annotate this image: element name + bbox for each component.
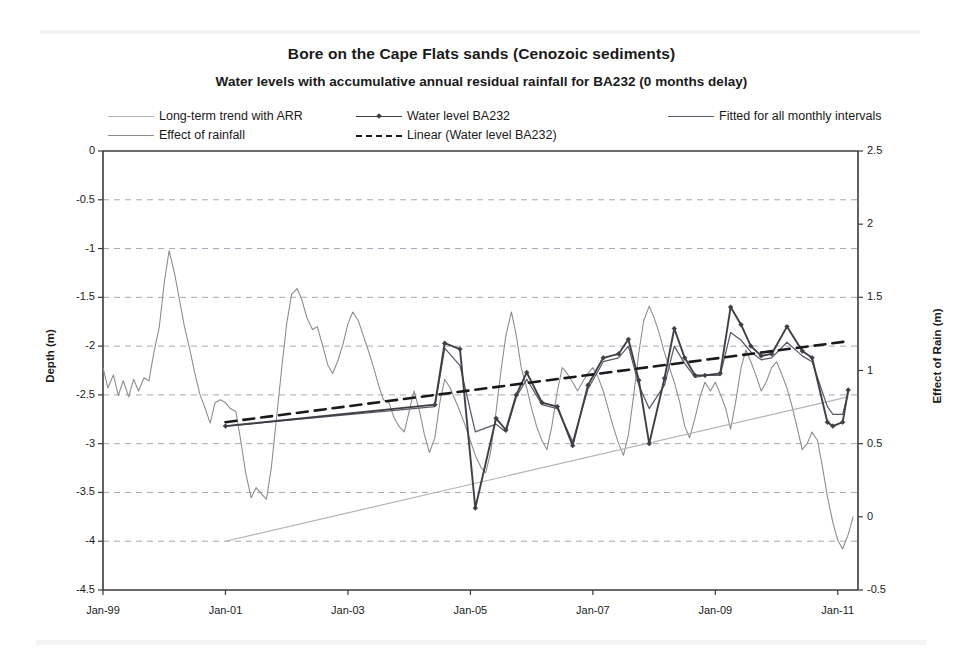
y-axis-tick-label: -1 bbox=[51, 242, 95, 254]
y-axis-tick-label: -4 bbox=[51, 534, 95, 546]
legend-marker bbox=[376, 113, 382, 119]
legend-swatch bbox=[668, 110, 714, 122]
y2-axis-tick-label: 1 bbox=[867, 364, 911, 376]
y-axis-tick-label: -1.5 bbox=[51, 290, 95, 302]
y2-axis-tick-label: 2.5 bbox=[867, 144, 911, 156]
legend-swatch bbox=[356, 129, 402, 141]
y-axis-tick-label: -2.5 bbox=[51, 388, 95, 400]
chart-container: Bore on the Cape Flats sands (Cenozoic s… bbox=[0, 0, 963, 666]
x-axis-tick-label: Jan-99 bbox=[68, 604, 138, 616]
x-axis-tick-label: Jan-01 bbox=[190, 604, 260, 616]
legend-label: Long-term trend with ARR bbox=[159, 109, 303, 123]
y2-axis-tick-label: 0 bbox=[867, 510, 911, 522]
y-axis-tick-label: 0 bbox=[51, 144, 95, 156]
y-axis-tick-label: -4.5 bbox=[51, 583, 95, 595]
y-axis-tick-label: -3.5 bbox=[51, 485, 95, 497]
legend-label: Linear (Water level BA232) bbox=[407, 128, 557, 142]
legend-label: Effect of rainfall bbox=[159, 128, 245, 142]
y-axis-tick-label: -0.5 bbox=[51, 193, 95, 205]
legend-label: Water level BA232 bbox=[407, 109, 510, 123]
x-axis-tick-label: Jan-07 bbox=[558, 604, 628, 616]
legend-item[interactable]: Long-term trend with ARR bbox=[108, 109, 303, 123]
y2-axis-tick-label: -0.5 bbox=[867, 583, 911, 595]
x-axis-tick-label: Jan-11 bbox=[803, 604, 873, 616]
legend-swatch bbox=[108, 110, 154, 122]
legend-item[interactable]: Effect of rainfall bbox=[108, 128, 245, 142]
legend-swatch bbox=[356, 110, 402, 122]
chart-subtitle: Water levels with accumulative annual re… bbox=[0, 74, 963, 89]
y2-axis-tick-label: 1.5 bbox=[867, 290, 911, 302]
y2-axis-title: Effect of Rain (m) bbox=[931, 281, 943, 431]
legend-item[interactable]: Fitted for all monthly intervals bbox=[668, 109, 882, 123]
legend-swatch bbox=[108, 129, 154, 141]
legend-item[interactable]: Linear (Water level BA232) bbox=[356, 128, 557, 142]
y-axis-tick-label: -3 bbox=[51, 437, 95, 449]
legend-item[interactable]: Water level BA232 bbox=[356, 109, 510, 123]
x-axis-tick-label: Jan-05 bbox=[435, 604, 505, 616]
legend-label: Fitted for all monthly intervals bbox=[719, 109, 882, 123]
y2-axis-tick-label: 0.5 bbox=[867, 437, 911, 449]
x-axis-tick-label: Jan-03 bbox=[313, 604, 383, 616]
plot-area bbox=[0, 0, 963, 666]
chart-legend: Long-term trend with ARREffect of rainfa… bbox=[108, 109, 868, 147]
y-axis-tick-label: -2 bbox=[51, 339, 95, 351]
plot-background bbox=[103, 151, 858, 590]
chart-title: Bore on the Cape Flats sands (Cenozoic s… bbox=[0, 45, 963, 63]
y2-axis-tick-label: 2 bbox=[867, 217, 911, 229]
x-axis-tick-label: Jan-09 bbox=[680, 604, 750, 616]
